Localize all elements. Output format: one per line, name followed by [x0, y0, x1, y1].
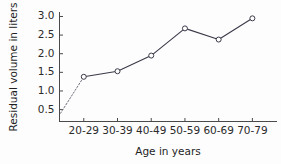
y-tick-label-1.5: 1.5	[38, 65, 55, 77]
x-tick-label-60-69: 60-69	[203, 124, 234, 136]
y-axis-title: Residual volume in liters	[7, 2, 19, 131]
line-chart: 0.51.01.52.02.53.0 20-2930-3940-4950-596…	[0, 0, 281, 164]
chart-container: 0.51.01.52.02.53.0 20-2930-3940-4950-596…	[0, 0, 281, 164]
data-point-40-49	[149, 53, 154, 58]
data-point-30-39	[115, 69, 120, 74]
y-tick-label-1.0: 1.0	[38, 84, 55, 96]
x-tick-label-30-39: 30-39	[102, 124, 133, 136]
y-tick-label-2.0: 2.0	[38, 47, 55, 59]
chart-background	[0, 0, 281, 164]
data-point-70-79	[250, 16, 255, 21]
x-tick-label-50-59: 50-59	[170, 124, 201, 136]
data-point-60-69	[216, 37, 221, 42]
x-tick-label-70-79: 70-79	[237, 124, 268, 136]
data-point-50-59	[182, 26, 187, 31]
data-point-20-29	[81, 74, 86, 79]
x-axis-title: Age in years	[135, 145, 200, 157]
y-tick-label-2.5: 2.5	[38, 28, 55, 40]
x-tick-label-40-49: 40-49	[136, 124, 167, 136]
x-tick-label-20-29: 20-29	[69, 124, 100, 136]
y-tick-label-3.0: 3.0	[38, 9, 55, 21]
y-tick-label-0.5: 0.5	[38, 103, 55, 115]
